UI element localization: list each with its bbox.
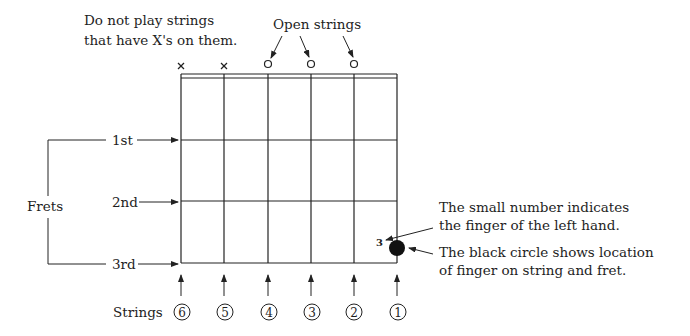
strings-label: Strings — [113, 304, 163, 320]
open-marker-2 — [351, 61, 358, 68]
svg-text:3: 3 — [308, 306, 316, 320]
frets-bracket-bottom — [48, 218, 106, 264]
finger-number-arrow — [386, 228, 433, 240]
string-arrows — [181, 275, 397, 296]
string-number-4: 4 — [261, 304, 277, 320]
string-number-1: 1 — [390, 304, 406, 320]
open-string-arrow-3 — [300, 36, 309, 57]
fret-label-1st: 1st — [112, 132, 134, 148]
black-circle-arrow — [409, 248, 433, 254]
black-circle-note-line1: The black circle shows location — [439, 244, 654, 260]
string-number-5: 5 — [217, 304, 233, 320]
chord-diagram-explainer: Do not play strings that have X's on the… — [0, 0, 690, 336]
fret-label-2nd: 2nd — [112, 194, 138, 210]
string-number-6: 6 — [174, 304, 190, 320]
svg-text:6: 6 — [178, 306, 186, 320]
fretboard-grid — [181, 74, 397, 263]
open-string-arrow-4 — [271, 36, 282, 58]
fret-label-3rd: 3rd — [112, 256, 136, 272]
muted-marker-5 — [221, 63, 227, 69]
frets-bracket-top — [48, 140, 106, 196]
finger-dot — [389, 240, 405, 256]
string-number-3: 3 — [304, 304, 320, 320]
frets-label: Frets — [27, 198, 63, 214]
black-circle-note-line2: of finger on string and fret. — [439, 262, 626, 278]
open-marker-3 — [308, 61, 315, 68]
svg-text:2: 2 — [350, 306, 358, 320]
svg-text:5: 5 — [221, 306, 229, 320]
open-string-arrow-2 — [343, 36, 353, 57]
muted-marker-6 — [178, 63, 184, 69]
muted-strings-note-line1: Do not play strings — [84, 12, 214, 28]
open-marker-4 — [265, 61, 272, 68]
string-number-2: 2 — [346, 304, 362, 320]
finger-number-note-line1: The small number indicates — [439, 199, 629, 215]
finger-number: 3 — [376, 237, 383, 248]
finger-number-note-line2: the finger of the left hand. — [439, 217, 620, 233]
svg-text:4: 4 — [265, 306, 273, 320]
muted-strings-note-line2: that have X's on them. — [84, 32, 237, 48]
svg-text:1: 1 — [394, 306, 402, 320]
open-strings-label: Open strings — [273, 16, 361, 32]
